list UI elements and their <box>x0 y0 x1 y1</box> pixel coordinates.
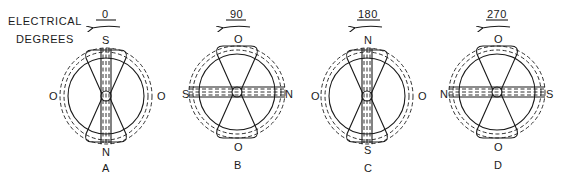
diagram-c <box>321 48 413 144</box>
degrees-c: 180 <box>358 9 378 20</box>
diagram-label-c: C <box>364 163 372 174</box>
pole-top-c: N <box>364 35 372 46</box>
pole-top-b: O <box>234 34 243 45</box>
diagram-label-a: A <box>102 163 110 174</box>
rotation-arrow-a <box>92 26 120 28</box>
pole-top-d: O <box>494 34 503 45</box>
pole-left-c: O <box>311 91 320 102</box>
pole-bottom-a: N <box>102 147 110 158</box>
pole-bottom-d: O <box>494 142 503 153</box>
rotation-arrow-b <box>222 26 250 28</box>
diagram-b <box>189 46 285 138</box>
diagram-label-b: B <box>234 160 242 171</box>
pole-bottom-c: S <box>364 145 372 156</box>
pole-top-a: S <box>102 35 110 46</box>
pole-bottom-b: O <box>234 142 243 153</box>
diagram-label-d: D <box>494 160 502 171</box>
diagram-d <box>449 46 545 138</box>
pole-right-d: S <box>546 89 554 100</box>
pole-right-c: O <box>418 91 427 102</box>
pole-left-a: O <box>49 91 58 102</box>
rotation-arrow-d <box>482 26 510 28</box>
rotation-arrow-c <box>354 26 382 28</box>
degrees-a: 0 <box>102 9 109 20</box>
pole-left-d: N <box>440 89 448 100</box>
pole-right-a: O <box>157 91 166 102</box>
diagram-canvas <box>0 0 561 176</box>
pole-left-b: S <box>182 89 190 100</box>
degrees-b: 90 <box>230 9 243 20</box>
pole-right-b: N <box>285 89 293 100</box>
diagram-a <box>60 48 152 144</box>
degrees-d: 270 <box>487 9 507 20</box>
